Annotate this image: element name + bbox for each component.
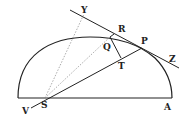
line-sp <box>31 48 142 108</box>
label-t: T <box>118 61 125 71</box>
label-r: R <box>118 24 126 34</box>
dotted-sy <box>45 14 84 98</box>
diagram-canvas: Y R Q P T Z V S A <box>0 0 192 125</box>
line-qr <box>110 34 114 37</box>
label-q: Q <box>103 42 111 52</box>
geometry-figure: Y R Q P T Z V S A <box>0 0 192 125</box>
label-y: Y <box>80 5 88 15</box>
label-a: A <box>163 102 172 112</box>
label-s: S <box>41 100 48 110</box>
ellipse-arc <box>18 37 172 98</box>
tangent-line <box>70 10 179 68</box>
dotted-sq <box>45 37 110 98</box>
label-v: V <box>21 106 30 116</box>
label-p: P <box>141 36 148 46</box>
label-z: Z <box>169 54 176 64</box>
